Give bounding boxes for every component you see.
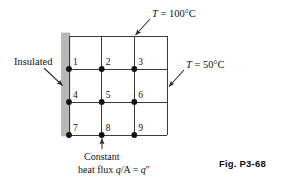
nodal-grid-diagram (0, 0, 290, 177)
top-value: 100 (169, 8, 185, 19)
heat-flux-mid: /A = (121, 164, 141, 175)
top-temperature-arrow (136, 19, 151, 35)
node-label-7: 7 (73, 124, 78, 134)
top-equals: = (158, 8, 169, 19)
figure-number: Fig. P3-68 (219, 159, 266, 169)
figure-container: 1 2 3 4 5 6 7 8 9 T = 100°C T = 50°C Ins… (0, 0, 290, 177)
node-point-7 (66, 132, 72, 138)
node-point-8 (99, 132, 105, 138)
node-point-3 (131, 66, 137, 72)
node-point-9 (131, 132, 137, 138)
node-point-4 (66, 99, 72, 105)
node-label-3: 3 (138, 58, 143, 68)
node-label-4: 4 (73, 91, 78, 101)
grid-lines (69, 36, 167, 135)
node-label-2: 2 (106, 58, 111, 68)
heat-flux-caption-line2: heat flux q/A = q″ (78, 165, 150, 175)
heat-flux-prefix: heat flux (78, 164, 116, 175)
node-label-1: 1 (73, 58, 78, 68)
node-point-6 (131, 99, 137, 105)
top-unit: C (189, 8, 196, 19)
heat-flux-caption-line1: Constant (84, 152, 120, 162)
right-temperature-arrow (169, 70, 184, 87)
insulated-arrow (44, 68, 63, 86)
node-label-5: 5 (106, 91, 111, 101)
insulated-label: Insulated (14, 57, 53, 68)
right-value: 50 (203, 59, 214, 70)
node-point-1 (66, 66, 72, 72)
node-point-5 (99, 99, 105, 105)
right-temperature-label: T = 50°C (186, 60, 225, 71)
double-prime: ″ (146, 164, 150, 175)
right-unit: C (218, 59, 225, 70)
node-label-8: 8 (106, 124, 111, 134)
node-label-9: 9 (138, 124, 143, 134)
node-label-6: 6 (138, 91, 143, 101)
right-equals: = (192, 59, 203, 70)
node-point-2 (99, 66, 105, 72)
top-temperature-label: T = 100°C (152, 9, 196, 20)
